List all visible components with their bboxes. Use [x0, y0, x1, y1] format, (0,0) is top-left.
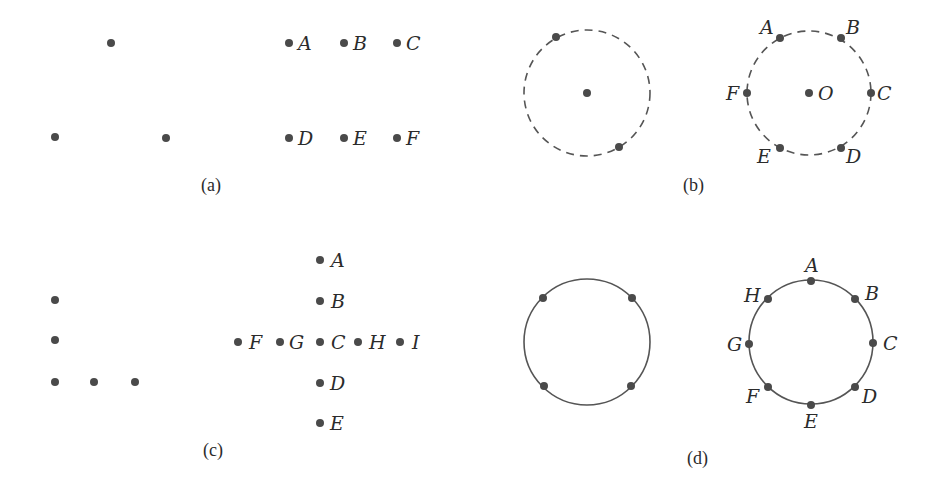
point-d [851, 383, 859, 391]
label-a: A [329, 249, 345, 271]
point [539, 294, 547, 302]
point-c [316, 338, 324, 346]
label-a: A [803, 254, 819, 276]
point [552, 33, 560, 41]
label-e: E [352, 127, 367, 149]
point-e [340, 134, 348, 142]
label-d: D [329, 372, 345, 394]
label-e: E [803, 410, 818, 432]
label-d: D [297, 127, 313, 149]
label-o: O [818, 82, 834, 104]
label-d: D [845, 145, 861, 167]
label-b: B [864, 282, 879, 304]
label-a: A [758, 16, 774, 38]
point [540, 382, 548, 390]
label-b: B [352, 32, 367, 54]
label-g: G [727, 333, 742, 355]
label-b: B [845, 16, 860, 38]
point-a [807, 277, 815, 285]
label-f: F [725, 82, 740, 104]
point-e [316, 419, 324, 427]
point-f [234, 338, 242, 346]
point-f [393, 134, 401, 142]
point-g [745, 340, 753, 348]
point [51, 133, 59, 141]
panel-b: A B C D E F O (b) [524, 16, 892, 196]
label-g: G [289, 331, 304, 353]
label-c: C [331, 331, 346, 353]
point-c [869, 339, 877, 347]
panel-d: A B C D E F G H (d) [524, 254, 898, 469]
point [51, 336, 59, 344]
point [131, 378, 139, 386]
point-c [393, 39, 401, 47]
label-e: E [756, 145, 771, 167]
center-point [583, 89, 591, 97]
point-f [764, 383, 772, 391]
panel-c: A B C D E F G H I (c) [51, 249, 420, 461]
point [51, 378, 59, 386]
label-a: A [296, 32, 312, 54]
point [90, 378, 98, 386]
point-a [776, 34, 784, 42]
label-h: H [743, 284, 761, 306]
point-d [285, 134, 293, 142]
point [51, 296, 59, 304]
caption-c: (c) [203, 440, 223, 461]
point-i [396, 338, 404, 346]
label-f: F [405, 127, 420, 149]
label-c: C [877, 82, 892, 104]
point-a [285, 39, 293, 47]
point-d [837, 144, 845, 152]
point [162, 134, 170, 142]
caption-a: (a) [201, 175, 221, 196]
point [628, 294, 636, 302]
panel-a: A B C D E F (a) [51, 32, 421, 196]
point [627, 382, 635, 390]
label-c: C [406, 32, 421, 54]
label-b: B [330, 290, 345, 312]
label-e: E [329, 412, 344, 434]
point-e [807, 401, 815, 409]
point [615, 143, 623, 151]
point-e [776, 144, 784, 152]
diagram-canvas: A B C D E F (a) A B C D E F O (b) [0, 0, 942, 486]
point [107, 39, 115, 47]
caption-d: (d) [687, 448, 708, 469]
caption-b: (b) [683, 175, 704, 196]
point-b [340, 39, 348, 47]
point-h [764, 295, 772, 303]
label-h: H [368, 331, 386, 353]
point-o [805, 89, 813, 97]
point-c [867, 89, 875, 97]
point-b [316, 297, 324, 305]
point-d [316, 379, 324, 387]
point-a [316, 256, 324, 264]
label-d: D [861, 385, 877, 407]
label-i: I [411, 331, 420, 353]
label-c: C [883, 332, 898, 354]
label-f: F [745, 385, 760, 407]
point-f [743, 89, 751, 97]
point-b [851, 295, 859, 303]
point-g [276, 338, 284, 346]
point-b [837, 34, 845, 42]
label-f: F [248, 331, 263, 353]
point-h [354, 338, 362, 346]
